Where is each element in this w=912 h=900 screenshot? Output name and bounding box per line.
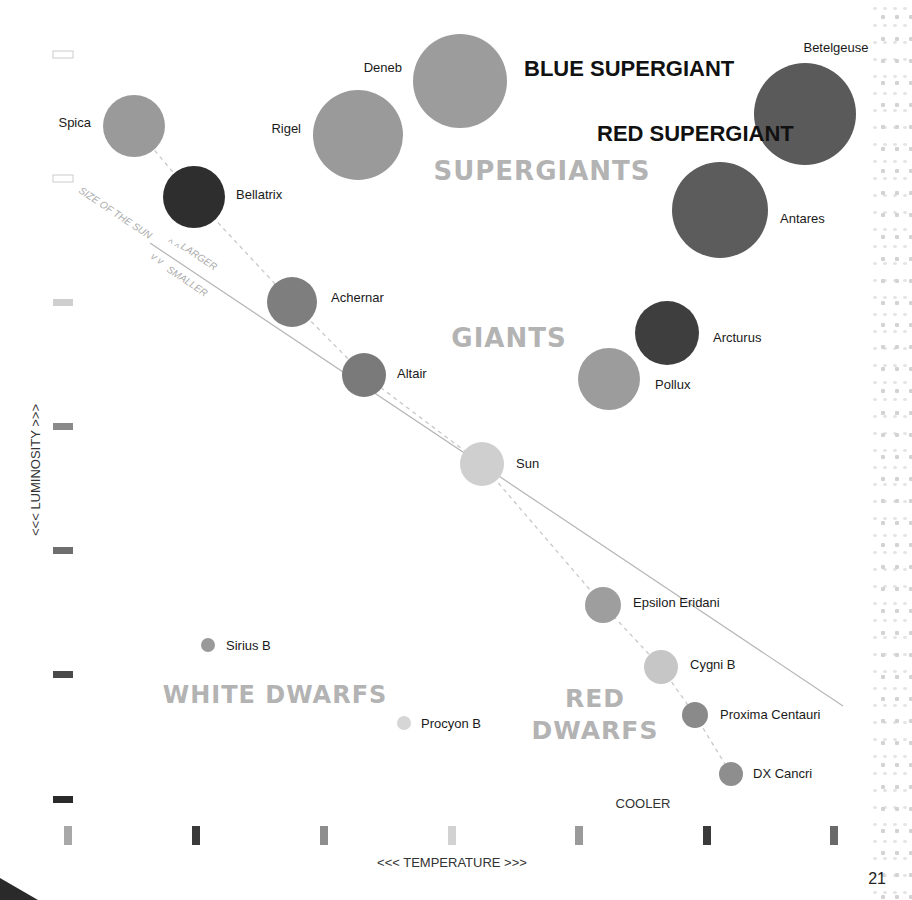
star-label: Achernar (331, 290, 384, 305)
star-bellatrix: Bellatrix (163, 166, 283, 228)
star-label: Deneb (364, 60, 402, 75)
star-achernar: Achernar (267, 277, 384, 327)
star-circle (201, 638, 215, 652)
smaller-annotation: SMALLER (165, 264, 210, 299)
star-circle (672, 162, 768, 258)
temperature-scale-bar (830, 826, 838, 845)
star-circle (342, 353, 386, 397)
star-label: Bellatrix (236, 187, 283, 202)
region-supergiants: SUPERGIANTS (433, 156, 650, 186)
region-giants: GIANTS (451, 323, 566, 353)
star-circle (267, 277, 317, 327)
x-axis-label: <<< TEMPERATURE >>> (377, 855, 527, 870)
star-label: Rigel (271, 121, 301, 136)
luminosity-scale-bar (53, 547, 73, 554)
temperature-scale-bar (64, 826, 72, 845)
star-proxima-centauri: Proxima Centauri (682, 702, 821, 728)
larger-label: LARGER (179, 241, 219, 273)
star-circle (397, 716, 411, 730)
star-circle (585, 587, 621, 623)
star-label: Sun (516, 456, 539, 471)
star-antares: Antares (672, 162, 825, 258)
star-betelgeuse: Betelgeuse (754, 40, 869, 165)
star-circle (578, 348, 640, 410)
callout-red-supergiant: RED SUPERGIANT (597, 121, 794, 146)
temperature-scale-bar (703, 826, 711, 845)
star-altair: Altair (342, 353, 427, 397)
star-label: Arcturus (713, 330, 762, 345)
star-circle (460, 442, 504, 486)
star-circle (313, 90, 403, 180)
sun-line-annotation: SIZE OF THE SUN (77, 185, 155, 242)
temperature-scale-bar (575, 826, 583, 845)
star-label: Antares (780, 211, 825, 226)
star-label: DX Cancri (753, 766, 812, 781)
star-circle (644, 650, 678, 684)
temperature-scale-bar (448, 826, 456, 845)
main-sequence-dashed-line (134, 126, 731, 774)
region-white-dwarfs: WHITE DWARFS (163, 681, 388, 709)
stars-group: SpicaBellatrixRigelDenebBetelgeuseAntare… (58, 34, 868, 786)
star-circle (754, 63, 856, 165)
star-label: Sirius B (226, 638, 271, 653)
star-sirius-b: Sirius B (201, 638, 271, 653)
smaller-label: SMALLER (165, 264, 210, 299)
region-red-dwarfs-line1: RED (565, 684, 625, 713)
star-label: Epsilon Eridani (633, 595, 720, 610)
star-circle (103, 95, 165, 157)
luminosity-scale-bar (53, 671, 73, 678)
star-cygni-b: Cygni B (644, 650, 736, 684)
star-spica: Spica (58, 95, 165, 157)
star-label: Proxima Centauri (720, 707, 821, 722)
star-rigel: Rigel (271, 90, 403, 180)
decorative-dots (872, 0, 912, 900)
star-circle (682, 702, 708, 728)
callout-blue-supergiant: BLUE SUPERGIANT (524, 56, 735, 81)
star-label: Betelgeuse (803, 40, 868, 55)
star-arcturus: Arcturus (635, 301, 762, 365)
star-circle (635, 301, 699, 365)
star-dx-cancri: DX Cancri (719, 762, 812, 786)
star-label: Cygni B (690, 657, 736, 672)
star-sun: Sun (460, 442, 539, 486)
star-circle (719, 762, 743, 786)
larger-annotation: LARGER (179, 241, 219, 273)
temperature-scale-bar (320, 826, 328, 845)
arrow-up-icon: ^ ^ (165, 237, 181, 253)
hr-diagram: SpicaBellatrixRigelDenebBetelgeuseAntare… (0, 0, 912, 900)
sun-size-label: SIZE OF THE SUN (77, 185, 155, 242)
luminosity-scale-bar (53, 423, 73, 430)
star-circle (163, 166, 225, 228)
x-axis-end-label: COOLER (616, 796, 671, 811)
star-label: Altair (397, 366, 427, 381)
star-circle (413, 34, 507, 128)
star-label: Procyon B (421, 716, 481, 731)
luminosity-scale-bar (53, 51, 73, 58)
region-red-dwarfs-line2: DWARFS (532, 716, 659, 745)
page-number: 21 (868, 870, 886, 888)
star-procyon-b: Procyon B (397, 716, 481, 731)
luminosity-scale-bar (53, 175, 73, 182)
diagram-canvas: SpicaBellatrixRigelDenebBetelgeuseAntare… (0, 0, 912, 900)
arrow-down-icon: v v (149, 251, 167, 268)
temperature-scale (64, 826, 838, 845)
luminosity-scale-bar (53, 796, 73, 803)
page-corner (0, 878, 38, 900)
luminosity-scale-bar (53, 299, 73, 306)
luminosity-scale (53, 51, 73, 803)
temperature-scale-bar (192, 826, 200, 845)
star-label: Spica (58, 115, 91, 130)
star-epsilon-eridani: Epsilon Eridani (585, 587, 720, 623)
y-axis-label: <<< LUMINOSITY >>> (28, 404, 43, 536)
star-label: Pollux (655, 377, 691, 392)
